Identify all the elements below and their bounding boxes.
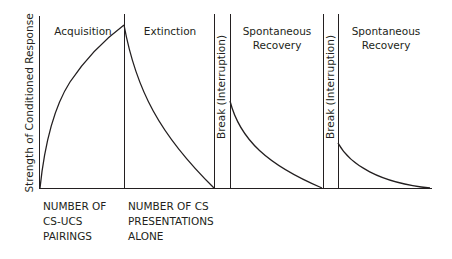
phase-label-extinction: Extinction <box>128 25 212 38</box>
x-label-extinction-line3: ALONE <box>128 229 163 244</box>
recovery2-curve <box>338 143 430 188</box>
x-label-acquisition-line3: PAIRINGS <box>43 229 92 244</box>
x-label-acquisition-line2: CS-UCS <box>43 214 82 229</box>
y-axis-label: Strength of Conditioned Response <box>23 13 37 193</box>
acquisition-curve <box>40 25 124 188</box>
break2-label: Break (Interruption) <box>324 39 338 139</box>
recovery1-curve <box>230 101 322 188</box>
extinction-curve <box>124 25 214 188</box>
break1-label: Break (Interruption) <box>215 39 229 139</box>
x-label-acquisition-line1: NUMBER OF <box>43 199 106 214</box>
phase-label-recovery2-line2: Recovery <box>340 39 432 52</box>
phase-label-recovery1-line1: Spontaneous <box>232 25 322 38</box>
phase-label-recovery1-line2: Recovery <box>232 39 322 52</box>
phase-label-recovery2-line1: Spontaneous <box>340 25 432 38</box>
x-label-extinction-line2: PRESENTATIONS <box>128 214 214 229</box>
x-label-extinction-line1: NUMBER OF CS <box>128 199 209 214</box>
conditioning-diagram: Strength of Conditioned Response Acquisi… <box>0 0 452 259</box>
phase-label-acquisition: Acquisition <box>42 25 124 38</box>
